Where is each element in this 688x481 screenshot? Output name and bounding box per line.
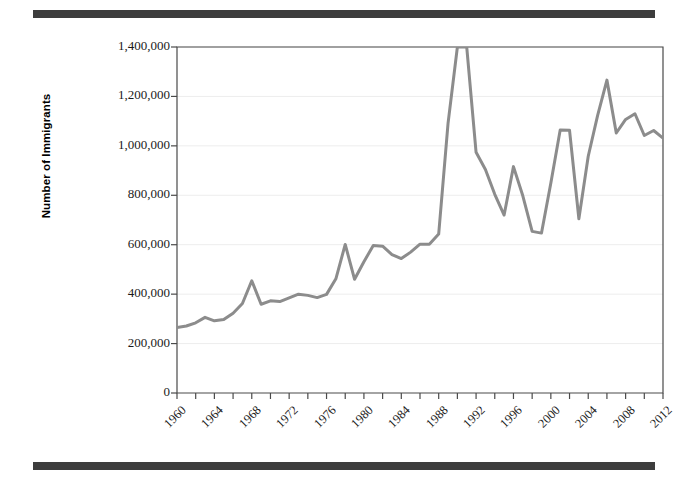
- line-chart-plot: [0, 0, 688, 481]
- figure-container: Number of Immigrants 0200,000400,000600,…: [0, 0, 688, 481]
- data-line: [177, 47, 663, 328]
- plot-frame: [177, 47, 663, 393]
